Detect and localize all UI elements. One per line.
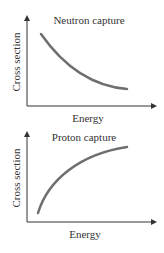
x-axis-label: Energy xyxy=(69,228,101,240)
y-axis-label: Cross section xyxy=(10,32,22,91)
decreasing-curve xyxy=(41,34,127,89)
y-axis-label: Cross section xyxy=(10,148,22,207)
neutron-capture-panel: Neutron capture Energy Cross section xyxy=(10,14,154,124)
panel-title: Neutron capture xyxy=(53,14,124,26)
panel-title: Proton capture xyxy=(52,131,117,143)
increasing-curve xyxy=(38,147,127,213)
capture-diagram: Neutron capture Energy Cross section Pro… xyxy=(0,0,164,253)
proton-capture-panel: Proton capture Energy Cross section xyxy=(10,131,154,240)
x-axis-label: Energy xyxy=(72,112,104,124)
